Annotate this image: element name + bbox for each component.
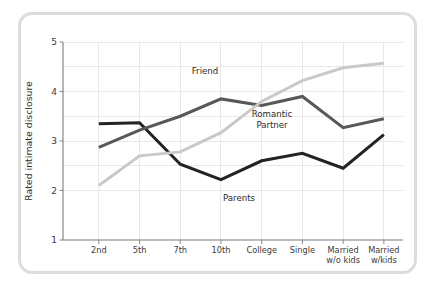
annotation-label-friend: Friend xyxy=(192,66,218,76)
x-tick-label: Marriedw/kids xyxy=(368,245,399,265)
x-tick-label: Marriedw/o kids xyxy=(326,245,360,265)
series-line-parents xyxy=(99,123,384,180)
x-axis-tick-labels: 2nd5th7th10thCollegeSingleMarriedw/o kid… xyxy=(91,245,399,265)
data-series-group xyxy=(99,63,384,185)
y-axis-title: Rated intimate disclosure xyxy=(23,81,34,201)
x-tick-label: 7th xyxy=(173,245,187,255)
annotation-label-parents: Parents xyxy=(223,193,256,203)
x-tick-label: Single xyxy=(290,245,315,255)
x-tick-label: 10th xyxy=(212,245,231,255)
y-tick-label: 3 xyxy=(51,136,57,146)
x-tick-label: 5th xyxy=(133,245,147,255)
chart-canvas: 12345 2nd5th7th10thCollegeSingleMarriedw… xyxy=(0,0,435,288)
line-chart: 12345 2nd5th7th10thCollegeSingleMarriedw… xyxy=(0,0,435,288)
y-axis-tick-labels: 12345 xyxy=(51,37,57,245)
x-axis-ticks xyxy=(99,240,384,244)
x-tick-label: College xyxy=(246,245,277,255)
y-tick-label: 2 xyxy=(51,186,57,196)
horizontal-gridlines xyxy=(63,42,403,191)
y-tick-label: 1 xyxy=(51,235,57,245)
series-line-friend xyxy=(99,96,384,147)
annotation-label-romantic: RomanticPartner xyxy=(252,109,293,130)
series-annotations: FriendRomanticPartnerParents xyxy=(192,66,293,203)
y-tick-label: 5 xyxy=(51,37,57,47)
y-tick-label: 4 xyxy=(51,87,57,97)
x-tick-label: 2nd xyxy=(91,245,107,255)
